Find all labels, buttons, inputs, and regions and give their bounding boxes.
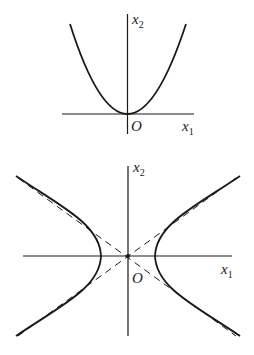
- origin-label: O: [132, 270, 143, 286]
- hyperbola-diagram: x2 x1 O: [16, 159, 240, 336]
- figure-canvas: x2 x1 O x2 x1 O: [0, 0, 254, 355]
- parabola-diagram: x2 x1 O: [62, 11, 194, 137]
- x1-axis-label: x1: [220, 261, 233, 280]
- origin-point: [126, 254, 130, 258]
- x2-axis-label: x2: [132, 159, 145, 178]
- x2-axis-label: x2: [131, 11, 144, 30]
- x1-axis-label: x1: [181, 118, 194, 137]
- origin-label: O: [131, 118, 142, 134]
